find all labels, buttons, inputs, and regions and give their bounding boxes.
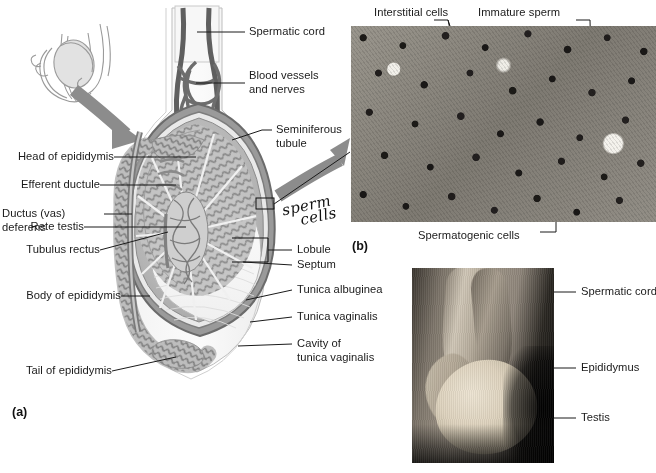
panel-a-left-leaders bbox=[84, 157, 196, 371]
blood-vessels-artwork bbox=[176, 62, 220, 136]
head-of-epididymis-artwork bbox=[152, 135, 204, 160]
cavity-of-tunica-vaginalis-artwork bbox=[150, 189, 261, 322]
spermatic-cord-artwork bbox=[175, 6, 220, 136]
label-tubulus-rectus: Tubulus rectus bbox=[4, 243, 100, 257]
label-immature-sperm: Immature sperm bbox=[478, 6, 560, 20]
label-tunica-vaginalis: Tunica vaginalis bbox=[297, 310, 378, 324]
testis-parenchyma bbox=[135, 118, 264, 322]
efferent-ductules-artwork bbox=[156, 159, 184, 190]
label-body-of-epididymis: Body of epididymis bbox=[4, 289, 121, 303]
label-interstitial-cells: Interstitial cells bbox=[374, 6, 448, 20]
label-seminiferous-tubule: Seminiferous tubule bbox=[276, 123, 342, 150]
label-efferent-ductule: Efferent ductule bbox=[4, 178, 100, 192]
cadaver-photograph-of-testis bbox=[412, 268, 554, 463]
label-blood-vessels-and-nerves: Blood vessels and nerves bbox=[249, 69, 319, 96]
label-cavity-of-tunica-vaginalis: Cavity of tunica vaginalis bbox=[297, 337, 374, 364]
ductus-deferens-artwork bbox=[130, 132, 140, 332]
label-lobule: Lobule bbox=[297, 243, 331, 257]
label-photo-testis: Testis bbox=[581, 411, 610, 425]
label-septum: Septum bbox=[297, 258, 336, 272]
label-rete-testis: Rete testis bbox=[4, 220, 84, 234]
septum-artwork bbox=[136, 134, 256, 320]
label-photo-spermatic-cord: Spermatic cord bbox=[581, 285, 656, 299]
label-photo-epididymus: Epididymus bbox=[581, 361, 639, 375]
orientation-inset-icon bbox=[31, 24, 110, 102]
label-tunica-albuginea: Tunica albuginea bbox=[297, 283, 383, 297]
photo-grain-overlay bbox=[412, 268, 554, 463]
micrograph-source-box bbox=[256, 198, 274, 209]
tunica-albuginea-artwork bbox=[125, 104, 274, 336]
cavity-striations bbox=[154, 249, 256, 328]
rete-testis-artwork bbox=[164, 192, 208, 284]
label-spermatogenic-cells: Spermatogenic cells bbox=[418, 229, 520, 243]
handwritten-sperm-cells-note: sperm cells bbox=[281, 193, 338, 230]
scrotal-sac-outline bbox=[118, 8, 267, 379]
panel-a-tag: (a) bbox=[12, 405, 27, 419]
handwritten-line-2: cells bbox=[299, 206, 338, 227]
testis-histology-micrograph bbox=[351, 26, 656, 222]
label-tail-of-epididymis: Tail of epididymis bbox=[4, 364, 112, 378]
seminiferous-tubules-artwork bbox=[136, 124, 257, 296]
tubulus-rectus-artwork bbox=[165, 214, 168, 268]
lobule-bracket bbox=[232, 238, 268, 262]
panel-b-tag: (b) bbox=[352, 239, 368, 253]
label-spermatic-cord: Spermatic cord bbox=[249, 25, 325, 39]
tail-of-epididymis-artwork bbox=[150, 337, 205, 372]
label-head-of-epididymis: Head of epididymis bbox=[4, 150, 114, 164]
zoom-arrow-inset bbox=[74, 90, 142, 149]
epididymis-artwork bbox=[122, 135, 208, 371]
anatomy-figure: Head of epididymis Efferent ductule Duct… bbox=[0, 0, 656, 473]
